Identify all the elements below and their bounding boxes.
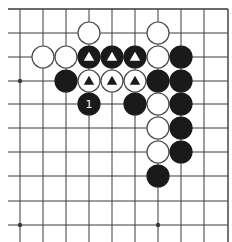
go-board: 1 — [0, 0, 232, 242]
move-number-label: 1 — [86, 98, 93, 111]
black-stone — [55, 70, 77, 92]
white-stone — [101, 70, 123, 92]
white-stone — [78, 70, 100, 92]
star-point — [18, 223, 22, 227]
black-stone — [170, 93, 192, 115]
black-stone — [147, 70, 169, 92]
white-stone — [147, 22, 169, 44]
black-stone — [170, 70, 192, 92]
black-stone: 1 — [78, 93, 100, 115]
black-stone — [78, 46, 100, 68]
black-stone — [124, 46, 146, 68]
black-stone — [170, 141, 192, 163]
white-stone — [147, 141, 169, 163]
star-point — [156, 223, 160, 227]
black-stone — [170, 46, 192, 68]
grid-lines — [8, 9, 228, 242]
white-stone — [124, 70, 146, 92]
black-stone — [170, 117, 192, 139]
white-stone — [55, 46, 77, 68]
white-stone — [147, 93, 169, 115]
black-stone — [124, 93, 146, 115]
star-point — [18, 79, 22, 83]
white-stone — [147, 46, 169, 68]
white-stone — [32, 46, 54, 68]
black-stone — [101, 46, 123, 68]
white-stone — [78, 22, 100, 44]
white-stone — [147, 117, 169, 139]
black-stone — [147, 165, 169, 187]
